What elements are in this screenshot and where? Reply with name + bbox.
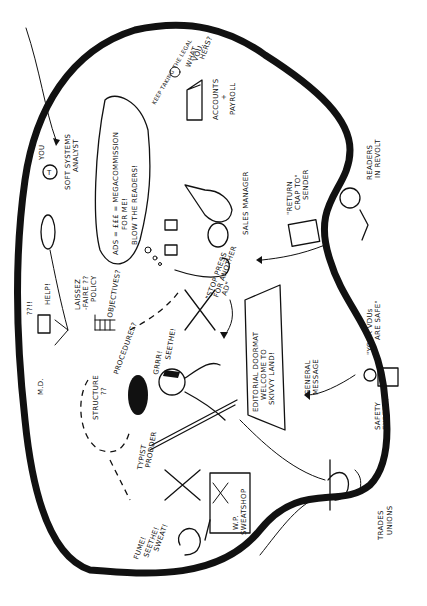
readers-label-1: READERS (366, 144, 374, 180)
handshake-icon (328, 460, 348, 510)
objectives-label: OBJECTIVES? (106, 269, 122, 318)
your-vdus-1: "YOUR VDUs (366, 308, 374, 355)
typist-prodder-2: PRODDER (144, 431, 158, 469)
ads-thought-bubble (95, 96, 150, 264)
safety-expert-2: EXPERT (382, 401, 390, 430)
procedures-label: PROCEDURES? (112, 321, 138, 376)
safety-expert-1: SAFETY (374, 401, 382, 430)
trades-unions-1: TRADES (377, 510, 385, 541)
thought-dot (153, 256, 157, 260)
cross-out-mark-2 (185, 290, 215, 330)
skull-crossbones-icon (213, 483, 228, 503)
editorial-1: EDITORIAL DOORMAT (252, 331, 260, 412)
md-label: M.D. (37, 378, 45, 395)
sales-manager-label: SALES MANAGER (242, 171, 250, 235)
ads-bubble-text-3: BLOW THE READERS! (131, 165, 139, 245)
arrow-head (53, 138, 60, 146)
angry-scribble (128, 375, 148, 415)
wp-sweatshop-1: W.P. (232, 515, 240, 530)
cross-out-mark-1 (165, 470, 200, 500)
wp-sweatshop-2: SWEATSHOP (240, 489, 248, 535)
you-label: YOU (38, 145, 46, 161)
reader-head (340, 188, 360, 208)
readers-label-2: IN REVOLT (374, 139, 382, 178)
laissez-3: POLICY (90, 275, 98, 302)
laissez-2: -FAIRE ?? (82, 276, 90, 310)
unions-arrow (355, 470, 361, 490)
grrr-label: GRRR! (152, 350, 164, 375)
stop-press-arrow (225, 300, 232, 335)
return-crap-1: "RETURN (286, 181, 294, 215)
editorial-2: WELCOME TO (260, 349, 268, 400)
ads-bubble-text-1: ADS = £££ = MEGACOMMISSION (112, 132, 120, 255)
structure-1: STRUCTURE (92, 375, 100, 420)
accounts-label-3: PAYROLL (229, 82, 237, 115)
arrow-head (220, 332, 228, 339)
general-message-2: MESSAGE (312, 359, 320, 395)
structure-2: ?? (100, 387, 108, 395)
svg-text:T: T (46, 169, 52, 177)
thought-dot (159, 263, 162, 266)
thought-dot (145, 247, 151, 253)
editorial-3: SKIVVY LAND! (268, 352, 276, 405)
reader-arm (360, 210, 368, 240)
ledger-book-icon (187, 80, 202, 120)
general-message-1: GENERAL (304, 360, 312, 395)
md-figure (38, 315, 50, 333)
prodder-stick (150, 400, 237, 450)
help-label: HELP! (44, 283, 52, 305)
seethe-label: SEETHE! (164, 327, 177, 360)
arrow-head (256, 256, 262, 264)
ads-bubble-text-2: FOR ME! (121, 198, 129, 230)
structure-dashed-arrow (110, 460, 130, 500)
laissez-1: LAISSEZ (74, 279, 82, 310)
return-crap-3: SENDER (302, 169, 310, 200)
your-vdus-2: ARE SAFE" (374, 300, 382, 340)
accounts-label-1: ACCOUNTS (212, 78, 220, 120)
analyst-label-1: SOFT SYSTEMS (64, 133, 72, 190)
accounts-label-2: + (220, 94, 228, 100)
rich-picture-diagram: T YOU SOFT SYSTEMS ANALYST KEEP TAKING T… (0, 0, 427, 606)
return-crap-2: CRAP TO" (294, 174, 302, 210)
returned-newspaper-icon (288, 220, 319, 247)
typist-figure (179, 520, 210, 555)
analyst-label-2: ANALYST (72, 139, 80, 172)
md-question: ??!! (26, 301, 34, 315)
trades-unions-2: UNIONS (386, 505, 394, 535)
return-arrow (262, 245, 325, 260)
